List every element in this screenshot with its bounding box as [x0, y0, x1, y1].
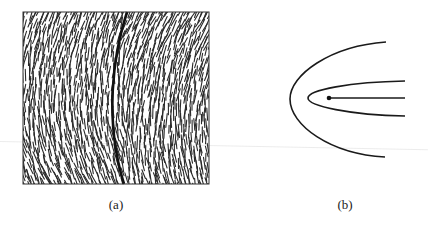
- hatch-stroke: [149, 0, 155, 11]
- hatch-stroke: [210, 51, 212, 64]
- hatch-stroke: [18, 65, 20, 73]
- hatch-stroke: [129, 119, 130, 128]
- hatch-stroke: [81, 60, 82, 73]
- hatch-stroke: [46, 126, 47, 136]
- hatch-stroke: [39, 71, 40, 85]
- hatch-stroke: [149, 48, 150, 56]
- hatch-stroke: [197, 136, 198, 144]
- hatch-stroke: [209, 30, 214, 42]
- hatch-stroke: [209, 116, 211, 128]
- hatch-stroke: [133, 153, 136, 164]
- hatch-stroke: [186, 134, 187, 144]
- hatch-stroke: [154, 98, 155, 108]
- hatch-stroke: [88, 100, 89, 110]
- hatch-stroke: [88, 124, 89, 133]
- hatch-stroke: [120, 65, 123, 74]
- hatch-stroke: [17, 11, 22, 22]
- hatch-stroke: [135, 142, 136, 154]
- hatch-stroke: [142, 117, 143, 127]
- caption-b: (b): [325, 197, 365, 213]
- hatch-stroke: [60, 110, 61, 120]
- hatch-stroke: [96, 184, 98, 192]
- hatch-stroke: [18, 122, 21, 131]
- hatch-stroke: [144, 85, 146, 93]
- hatch-stroke: [42, 116, 44, 125]
- hatch-stroke: [36, 7, 41, 16]
- hatch-stroke: [163, 147, 164, 155]
- hatch-stroke: [128, 129, 131, 142]
- hatch-stroke: [108, 79, 109, 88]
- hatch-stroke: [18, 46, 21, 55]
- hatch-stroke: [76, 157, 78, 167]
- hatch-stroke: [123, 108, 125, 121]
- hatch-stroke: [86, 153, 90, 161]
- hatch-stroke: [201, 2, 209, 11]
- hatch-stroke: [181, 161, 183, 170]
- hatch-stroke: [75, 81, 77, 89]
- hatch-stroke: [212, 84, 214, 93]
- hatch-stroke: [171, 184, 172, 192]
- hatch-stroke: [208, 184, 212, 197]
- hatch-stroke: [76, 140, 77, 152]
- hatch-stroke: [21, 145, 26, 157]
- hatch-stroke: [163, 1, 167, 10]
- hatch-stroke: [107, 63, 108, 73]
- hatch-stroke: [135, 184, 139, 193]
- hatch-stroke: [52, 103, 53, 113]
- hatch-stroke: [49, 40, 50, 52]
- hatch-stroke: [20, 115, 21, 125]
- hatch-stroke: [133, 113, 134, 125]
- hatch-stroke: [24, 102, 26, 112]
- hatch-stroke: [77, 83, 78, 92]
- hatch-stroke: [126, 112, 127, 122]
- hatch-stroke: [72, 96, 73, 106]
- hatch-stroke: [97, 63, 98, 74]
- hatch-stroke: [127, 135, 128, 146]
- hatch-stroke: [75, 178, 78, 186]
- hatch-stroke: [61, 101, 62, 109]
- hatch-stroke: [210, 27, 214, 35]
- hatch-stroke: [95, 109, 96, 120]
- hatch-stroke: [95, 48, 96, 58]
- hatch-stroke: [212, 166, 213, 178]
- hatch-stroke: [80, 79, 81, 87]
- hatch-stroke: [48, 25, 50, 36]
- hatch-stroke: [17, 131, 20, 141]
- hatch-stroke: [100, 1, 103, 10]
- hatch-stroke: [104, 117, 105, 126]
- hatch-stroke: [71, 168, 74, 179]
- hatch-stroke: [74, 75, 75, 85]
- hatch-stroke: [184, 95, 185, 103]
- hatch-stroke: [164, 125, 165, 138]
- hatch-stroke: [108, 140, 110, 153]
- hatch-stroke: [33, 87, 34, 99]
- hatch-stroke: [100, 130, 102, 139]
- hatch-stroke: [36, 1, 42, 13]
- hatch-stroke: [146, 58, 148, 68]
- hatch-stroke: [162, 94, 164, 102]
- hatch-stroke: [212, 75, 215, 86]
- hatch-stroke: [28, 181, 33, 194]
- hatch-stroke: [28, 3, 32, 12]
- hatch-stroke: [211, 126, 212, 138]
- hatch-stroke: [212, 109, 213, 119]
- panel-a: [15, 0, 216, 196]
- hatch-stroke: [159, 58, 160, 68]
- hatch-stroke: [204, 157, 206, 169]
- hatch-stroke: [101, 83, 102, 93]
- hatch-stroke: [173, 94, 174, 105]
- hatch-stroke: [191, 133, 192, 142]
- hatch-stroke: [24, 37, 25, 46]
- hatch-stroke: [183, 130, 184, 140]
- hatch-stroke: [112, 1, 114, 12]
- hatch-stroke: [86, 91, 87, 105]
- hatch-stroke: [34, 1, 38, 10]
- hatch-stroke: [180, 113, 181, 125]
- hatch-stroke: [210, 64, 214, 74]
- hatch-stroke: [108, 153, 111, 161]
- hatch-stroke: [164, 158, 167, 168]
- hatch-stroke: [161, 36, 165, 46]
- hatch-stroke: [172, 134, 173, 145]
- hatch-stroke: [20, 84, 21, 93]
- hatch-stroke: [201, 53, 202, 61]
